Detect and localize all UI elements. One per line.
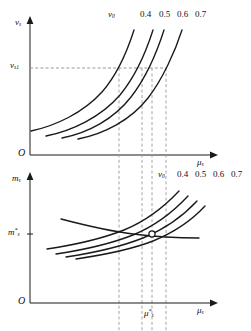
lower-origin-label: O: [18, 296, 25, 306]
lower-curve-label-07: 0.7: [231, 170, 242, 179]
upper-curve-0.6: [62, 30, 164, 138]
upper-curve-label-06: 0.6: [177, 10, 188, 19]
lower-chart: [27, 172, 218, 306]
optimum-point-marker: [149, 231, 155, 237]
upper-x-axis-label: μs: [197, 158, 204, 168]
upper-y-axis-arrow: [27, 16, 34, 24]
upper-legend-title: v0: [108, 10, 115, 20]
lower-curves: [47, 191, 205, 259]
upper-ytick-label-vs1: vs1: [10, 61, 19, 71]
lower-curve-label-05: 0.5: [195, 170, 206, 179]
upper-curve-label-04: 0.4: [140, 10, 151, 19]
lower-ytick-label-ms-star: m*s: [8, 227, 20, 238]
figure-container: vs vs1 O μs v0 0.4 0.5 0.6 0.7 ms m*s O …: [0, 0, 251, 331]
lower-xtick-label-mus-star: μ*s: [144, 308, 154, 319]
lower-legend-title: v0: [158, 170, 165, 180]
upper-drop-lines: [119, 68, 166, 331]
upper-curve-label-07: 0.7: [195, 10, 206, 19]
upper-chart: [27, 16, 218, 331]
lower-y-axis-arrow: [27, 172, 34, 180]
upper-axes: [30, 22, 212, 155]
lower-curve-label-04: 0.4: [177, 170, 188, 179]
lower-y-axis-label: ms: [12, 174, 21, 184]
lower-curve-label-06: 0.6: [213, 170, 224, 179]
lower-curve-0.7: [76, 206, 205, 259]
lower-x-axis-arrow: [210, 300, 218, 307]
upper-curve-label-05: 0.5: [159, 10, 170, 19]
upper-x-axis-arrow: [210, 152, 218, 159]
upper-curves: [31, 30, 182, 139]
figure-canvas: [0, 0, 251, 331]
lower-axes: [30, 178, 212, 303]
upper-y-axis-label: vs: [15, 18, 21, 28]
lower-x-axis-label: μs: [197, 306, 204, 316]
upper-origin-label: O: [18, 148, 25, 158]
